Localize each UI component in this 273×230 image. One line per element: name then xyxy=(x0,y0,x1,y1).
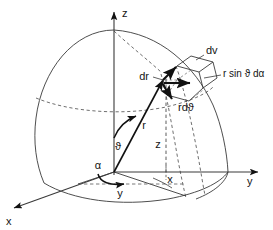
x-projection-label: x xyxy=(167,173,173,185)
x-axis-label: x xyxy=(6,215,12,227)
dr-label: dr xyxy=(139,70,149,82)
diagram-canvas: z y x α ϑ r z x y dv dr rdϑ r sin ϑ dα xyxy=(0,0,273,230)
y-axis-label: y xyxy=(247,175,253,187)
spherical-coordinates-figure: z y x α ϑ r z x y dv dr rdϑ r sin ϑ dα xyxy=(0,0,273,230)
rsinthetadalpha-label: r sin ϑ dα xyxy=(223,68,264,79)
y-projection-label: y xyxy=(117,187,123,199)
rdtheta-label: rdϑ xyxy=(178,101,194,113)
alpha-angle-label: α xyxy=(95,159,102,171)
z-axis-label: z xyxy=(122,7,128,19)
figure-background xyxy=(0,0,273,230)
theta-angle-label: ϑ xyxy=(115,140,121,152)
r-label: r xyxy=(142,119,146,131)
dv-label: dv xyxy=(206,44,218,56)
z-projection-label: z xyxy=(155,138,161,150)
